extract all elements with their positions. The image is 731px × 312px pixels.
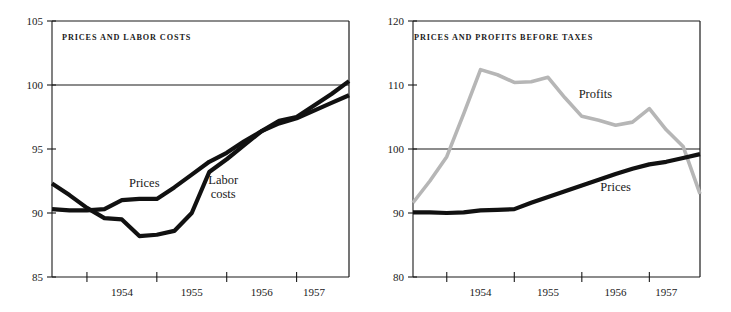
left-chart-svg: 8590951001051954195519561957 PRICES AND …: [0, 0, 366, 312]
y-tick-label: 80: [393, 271, 405, 283]
y-tick-label: 100: [27, 79, 44, 91]
series-label-profits: Profits: [579, 87, 612, 101]
y-tick-label: 90: [32, 207, 44, 219]
x-tick-label: 1954: [470, 286, 493, 298]
y-tick-label: 105: [27, 15, 44, 27]
series-label-labor-costs: Laborcosts: [208, 173, 239, 201]
right-chart-tick-labels: 80901001101201954195519561957: [388, 15, 678, 298]
chart-panel-prices-and-labor-costs: 8590951001051954195519561957 PRICES AND …: [0, 0, 366, 312]
x-tick-label: 1957: [655, 286, 678, 298]
x-tick-label: 1955: [537, 286, 560, 298]
left-chart-series-lines: [52, 81, 349, 236]
x-tick-label: 1956: [251, 286, 274, 298]
two-panel-line-chart-figure: 8590951001051954195519561957 PRICES AND …: [0, 0, 731, 312]
series-line-profits: [413, 70, 700, 203]
left-chart-title: PRICES AND LABOR COSTS: [62, 33, 191, 42]
series-line-labor-costs: [52, 81, 349, 236]
y-tick-label: 100: [388, 143, 405, 155]
left-chart-axes: [47, 21, 349, 282]
right-chart-axes: [408, 21, 700, 282]
left-chart-tick-labels: 8590951001051954195519561957: [27, 15, 326, 298]
series-line-prices: [413, 154, 700, 213]
right-chart-svg: 80901001101201954195519561957 PRICES AND…: [366, 0, 731, 312]
series-label-prices: Prices: [600, 180, 631, 194]
right-chart-series-lines: [413, 70, 700, 213]
x-tick-label: 1957: [303, 286, 326, 298]
y-tick-label: 95: [32, 143, 44, 155]
right-chart-title: PRICES AND PROFITS BEFORE TAXES: [414, 33, 593, 42]
x-tick-label: 1954: [111, 286, 134, 298]
x-tick-label: 1955: [181, 286, 204, 298]
left-chart-series-labels: PricesLaborcosts: [129, 173, 239, 201]
y-tick-label: 110: [388, 79, 405, 91]
y-tick-label: 120: [388, 15, 405, 27]
chart-panel-prices-and-profits-before-taxes: 80901001101201954195519561957 PRICES AND…: [366, 0, 731, 312]
y-tick-label: 90: [393, 207, 405, 219]
series-label-prices: Prices: [129, 176, 160, 190]
x-tick-label: 1956: [605, 286, 628, 298]
y-tick-label: 85: [32, 271, 44, 283]
